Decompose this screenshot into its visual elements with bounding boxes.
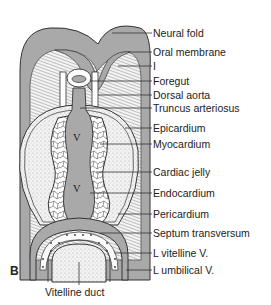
chamber-label-upper: V	[73, 132, 81, 144]
label-foregut: Foregut	[153, 75, 189, 87]
label-vitelline-duct: Vitelline duct	[45, 286, 104, 298]
embryo-heart-diagram	[0, 0, 271, 305]
label-neural-fold: Neural fold	[153, 27, 204, 39]
chamber-label-lower: V	[73, 183, 81, 195]
label-l-vitelline-v: L vitelline V.	[153, 247, 208, 259]
label-endocardium: Endocardium	[153, 187, 215, 199]
foregut-lumen	[72, 76, 86, 83]
label-truncus-arteriosus: Truncus arteriosus	[153, 102, 240, 114]
label-dorsal-aorta: Dorsal aorta	[153, 89, 210, 101]
label-epicardium: Epicardium	[153, 122, 206, 134]
label-pericardium: Pericardium	[153, 208, 209, 220]
dorsal-aorta-left	[60, 72, 66, 107]
label-cardiac-jelly: Cardiac jelly	[153, 166, 210, 178]
label-myocardium: Myocardium	[153, 138, 210, 150]
panel-label: B	[10, 264, 19, 278]
label-l-umbilical-v: L umbilical V.	[153, 264, 214, 276]
dorsal-aorta-right	[92, 72, 98, 107]
label-oral-membrane: Oral membrane	[153, 46, 226, 58]
label-i: I	[153, 60, 156, 72]
label-septum-transversum: Septum transversum	[153, 227, 250, 239]
